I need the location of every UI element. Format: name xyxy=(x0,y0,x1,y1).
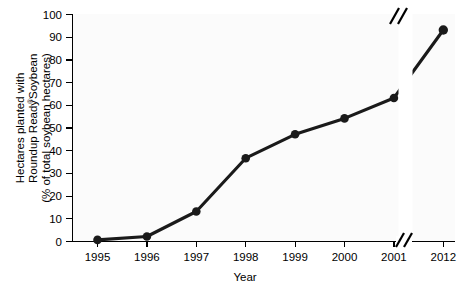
x-axis-title: Year xyxy=(233,271,256,283)
line-chart-svg: 0 10 20 30 40 50 60 70 80 90 100 1995 19 xyxy=(0,0,462,289)
chart-figure: 0 10 20 30 40 50 60 70 80 90 100 1995 19 xyxy=(0,0,462,289)
y-axis-ticks xyxy=(66,15,72,242)
y-tick-label-10: 10 xyxy=(49,213,62,225)
y-axis-title-line1: Hectares planted with xyxy=(14,73,26,184)
x-tick-label-1995: 1995 xyxy=(85,251,111,263)
data-point-1995 xyxy=(93,236,102,245)
axis-break-gap-mask xyxy=(399,14,413,241)
x-tick-label-1998: 1998 xyxy=(233,251,259,263)
data-point-2012 xyxy=(439,25,448,34)
y-axis-title-line2: Roundup Ready ® Soybean xyxy=(26,54,40,183)
data-point-2001 xyxy=(390,94,399,103)
x-tick-label-2000: 2000 xyxy=(332,251,358,263)
x-tick-label-1996: 1996 xyxy=(134,251,160,263)
x-tick-label-2001: 2001 xyxy=(381,251,407,263)
data-point-1998 xyxy=(241,154,250,163)
plot-area-background xyxy=(72,14,455,241)
y-tick-label-0: 0 xyxy=(56,236,62,248)
data-point-1999 xyxy=(291,130,300,139)
y-axis-title-line2-main: Roundup Ready xyxy=(27,100,39,183)
x-tick-label-1997: 1997 xyxy=(184,251,210,263)
x-axis-tick-labels: 1995 1996 1997 1998 1999 2000 2001 2012 xyxy=(85,251,456,263)
y-axis-title-line3: (% of total soybean hectares) xyxy=(40,53,52,203)
data-point-2000 xyxy=(340,114,349,123)
x-tick-label-2012: 2012 xyxy=(431,251,457,263)
data-point-1996 xyxy=(143,232,152,241)
y-axis-title: Hectares planted with Roundup Ready ® So… xyxy=(14,53,52,203)
y-tick-label-100: 100 xyxy=(43,9,62,21)
y-axis-title-line2-tail: Soybean xyxy=(27,54,39,99)
data-point-1997 xyxy=(192,207,201,216)
x-tick-label-1999: 1999 xyxy=(282,251,308,263)
y-tick-label-90: 90 xyxy=(49,31,62,43)
